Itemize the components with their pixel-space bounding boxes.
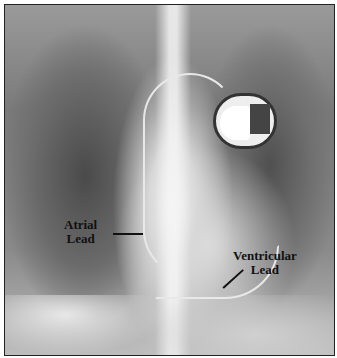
atrial-lead-label-line1: Atrial (64, 218, 97, 232)
atrial-lead-label: Atrial Lead (64, 218, 97, 246)
pacemaker-device (213, 93, 277, 149)
chest-xray-image (4, 4, 335, 356)
atrial-lead-label-line2: Lead (64, 232, 97, 246)
ventricular-lead-label: Ventricular Lead (233, 249, 297, 277)
atrial-lead-pointer (113, 233, 143, 235)
pacemaker-circuitry (250, 104, 270, 134)
diaphragm-shadow (5, 295, 334, 355)
ventricular-lead-label-line1: Ventricular (233, 249, 297, 263)
pacemaker-battery (220, 106, 250, 140)
xray-figure: Atrial Lead Ventricular Lead (0, 0, 337, 358)
